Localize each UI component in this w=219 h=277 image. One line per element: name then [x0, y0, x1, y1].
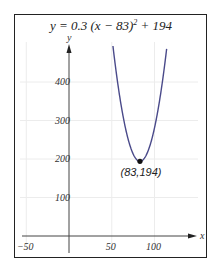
x-tick-label: 50 — [106, 241, 116, 252]
y-tick-label: 400 — [55, 76, 70, 87]
y-tick-label: 100 — [55, 192, 70, 203]
vertex-marker — [137, 159, 142, 164]
gridlines — [20, 42, 198, 250]
vertex-label: (83,194) — [120, 166, 161, 178]
title-rest: + 194 — [137, 18, 172, 33]
x-axis-label: x — [199, 230, 205, 241]
x-axis-arrow-icon — [188, 234, 197, 239]
y-tick-label: 300 — [54, 115, 70, 126]
y-axis-label: y — [66, 32, 72, 43]
parabola-chart: x y −5050100100200300400 (83,194) y = 0.… — [0, 0, 219, 277]
x-tick-label: 100 — [146, 241, 161, 252]
tick-labels: −5050100100200300400 — [17, 76, 161, 252]
x-tick-label: −50 — [17, 241, 34, 252]
title-main: y = 0.3 (x − 83) — [48, 18, 133, 33]
chart-title: y = 0.3 (x − 83)2 + 194 — [48, 18, 173, 33]
axes: x y — [22, 32, 205, 253]
y-axis-arrow-icon — [67, 44, 72, 53]
parabola-curve — [113, 46, 167, 161]
y-tick-label: 200 — [55, 153, 70, 164]
